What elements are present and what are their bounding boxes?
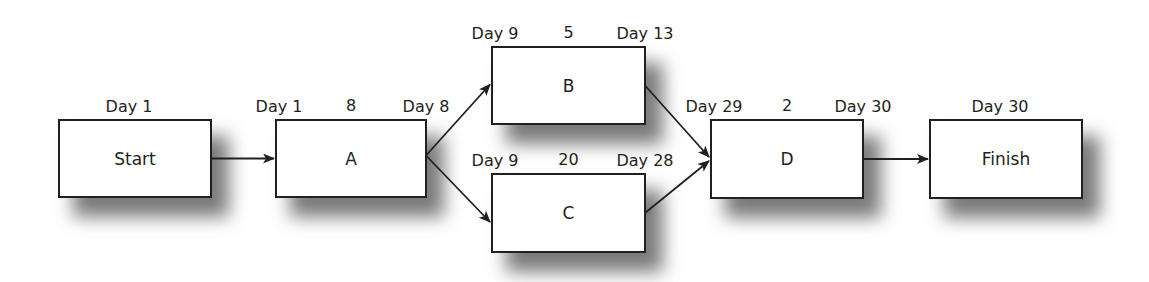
duration-label: 5: [563, 23, 573, 42]
node-label: B: [563, 76, 575, 96]
node-finish: FinishDay 30: [930, 97, 1082, 198]
early-finish-label: Day 28: [616, 151, 673, 170]
early-start-label: Day 9: [472, 151, 519, 170]
network-diagram-canvas: StartDay 1ADay 18Day 8BDay 95Day 13CDay …: [0, 0, 1149, 282]
early-finish-label: Day 30: [834, 97, 891, 116]
early-finish-label: Day 13: [616, 24, 673, 43]
node-a: ADay 18Day 8: [256, 96, 450, 197]
node-d: DDay 292Day 30: [685, 96, 891, 198]
node-b: BDay 95Day 13: [472, 23, 674, 124]
early-start-label: Day 9: [472, 24, 519, 43]
node-label: Finish: [982, 149, 1030, 169]
milestone-day-label: Day 30: [971, 97, 1028, 116]
network-diagram: StartDay 1ADay 18Day 8BDay 95Day 13CDay …: [0, 0, 1149, 282]
node-label: A: [345, 149, 357, 169]
early-start-label: Day 1: [256, 97, 303, 116]
duration-label: 8: [346, 96, 356, 115]
milestone-day-label: Day 1: [106, 97, 153, 116]
duration-label: 20: [558, 150, 578, 169]
duration-label: 2: [782, 96, 792, 115]
node-label: C: [563, 203, 575, 223]
edge-a-to-b: [426, 85, 490, 156]
node-label: D: [780, 149, 793, 169]
node-c: CDay 920Day 28: [472, 150, 674, 252]
node-label: Start: [114, 149, 156, 169]
early-start-label: Day 29: [685, 97, 742, 116]
early-finish-label: Day 8: [403, 97, 450, 116]
node-start: StartDay 1: [59, 97, 211, 197]
